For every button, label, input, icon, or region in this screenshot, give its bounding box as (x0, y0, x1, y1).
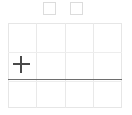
grid-horizontal-line (8, 81, 122, 82)
square-button-1[interactable] (43, 2, 56, 15)
toolbar (43, 2, 85, 17)
square-button-2[interactable] (70, 2, 83, 15)
grid-vertical-line (65, 23, 66, 108)
grid-vertical-line (36, 23, 37, 108)
baseline-rule[interactable] (8, 79, 122, 80)
grid-canvas[interactable] (8, 23, 122, 108)
plus-vertical-bar (20, 56, 22, 73)
app-root (0, 0, 132, 115)
grid-vertical-line (93, 23, 94, 108)
plus-marker-icon[interactable] (13, 56, 30, 73)
grid-horizontal-line (8, 52, 122, 53)
